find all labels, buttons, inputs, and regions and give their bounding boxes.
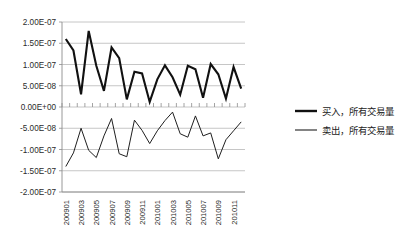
- y-axis-tick-labels: 2.00E-071.50E-071.00E-075.00E-080.00E+00…: [20, 18, 56, 197]
- y-axis-tick-label: 1.00E-07: [23, 61, 57, 70]
- x-axis-tick-label: 201011: [230, 200, 239, 225]
- x-axis-tick-label: 200907: [108, 200, 117, 225]
- x-axis-tick-label: 201007: [199, 200, 208, 225]
- y-axis-tick-label: -2.00E-07: [20, 188, 56, 197]
- y-axis-tick-label: -5.00E-08: [20, 124, 56, 133]
- y-axis-tick-label: 2.00E-07: [23, 18, 57, 27]
- chart-container: 2.00E-071.50E-071.00E-075.00E-080.00E+00…: [0, 0, 416, 251]
- y-axis-tick-label: -1.00E-07: [20, 146, 56, 155]
- x-axis-tick-label: 201003: [169, 200, 178, 225]
- legend-label-buy: 买入，所有交易量: [322, 106, 394, 117]
- x-axis-tick-label: 200909: [123, 200, 132, 225]
- x-axis-tick-label: 200901: [62, 200, 71, 225]
- y-axis-tick-label: 0.00E+00: [21, 103, 57, 112]
- x-axis-tick-label: 201005: [184, 200, 193, 225]
- y-axis-tick-label: 5.00E-08: [23, 82, 57, 91]
- x-axis-tick-label: 200905: [92, 200, 101, 225]
- x-axis-tick-label: 200903: [77, 200, 86, 225]
- line-chart: 2.00E-071.50E-071.00E-075.00E-080.00E+00…: [0, 0, 416, 251]
- y-axis-tick-label: -1.50E-07: [20, 167, 56, 176]
- x-axis-tick-label: 201009: [214, 200, 223, 225]
- x-axis-tick-label: 201001: [153, 200, 162, 225]
- y-axis-tick-label: 1.50E-07: [23, 39, 57, 48]
- x-axis-tick-label: 200911: [138, 200, 147, 225]
- legend-label-sell: 卖出，所有交易量: [322, 125, 394, 136]
